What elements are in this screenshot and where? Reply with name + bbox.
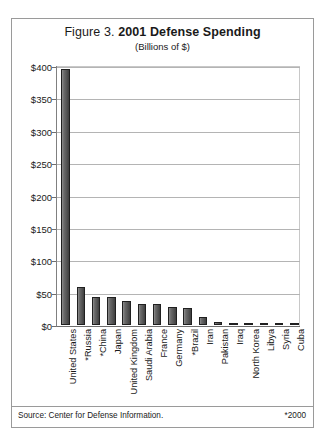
x-axis-label-slot: United States — [56, 329, 71, 415]
bars-layer — [58, 67, 299, 325]
bar-slot — [153, 67, 162, 325]
bar — [61, 69, 70, 325]
bar-slot — [260, 67, 269, 325]
y-axis-tick-label: $250 — [12, 159, 52, 170]
bar-slot — [229, 67, 238, 325]
x-axis-label-slot: Iran — [193, 329, 208, 415]
bar — [260, 323, 269, 325]
x-axis-label-slot: Libya — [254, 329, 269, 415]
bar — [244, 323, 253, 325]
x-axis-labels: United States*Russia*ChinaJapanUnited Ki… — [56, 329, 300, 415]
year-footnote: *2000 — [285, 411, 306, 420]
plot-region — [56, 66, 300, 327]
x-axis-label-slot: Syria — [270, 329, 285, 415]
bar — [138, 304, 147, 325]
x-axis-label-slot: Germany — [163, 329, 178, 415]
footer: Source: Center for Defense Information. … — [12, 407, 313, 427]
bar — [77, 287, 86, 325]
bar-slot — [214, 67, 223, 325]
bar — [229, 323, 238, 325]
bar — [183, 308, 192, 325]
y-axis-tick-label: $400 — [12, 62, 52, 73]
title-block: Figure 3. 2001 Defense Spending (Billion… — [12, 25, 313, 53]
bar-slot — [275, 67, 284, 325]
bar-slot — [138, 67, 147, 325]
x-axis-label-slot: Iraq — [224, 329, 239, 415]
bar-slot — [244, 67, 253, 325]
bar-slot — [77, 67, 86, 325]
source-note: Source: Center for Defense Information. — [18, 411, 163, 420]
y-axis-tick-label: $0 — [12, 321, 52, 332]
figure-number: Figure 3. — [64, 25, 114, 39]
chart-subtitle: (Billions of $) — [12, 41, 313, 53]
y-axis-tick-label: $50 — [12, 288, 52, 299]
bar — [168, 307, 177, 325]
x-axis-label-slot: North Korea — [239, 329, 254, 415]
y-axis-tick-label: $100 — [12, 256, 52, 267]
bar — [290, 323, 299, 325]
bar-slot — [290, 67, 299, 325]
y-axis-tick-label: $300 — [12, 126, 52, 137]
figure-title-text: 2001 Defense Spending — [118, 25, 260, 39]
bar-slot — [92, 67, 101, 325]
bar-slot — [168, 67, 177, 325]
bar-slot — [199, 67, 208, 325]
bar — [122, 301, 131, 325]
bar — [199, 317, 208, 325]
x-axis-label-slot: Pakistan — [209, 329, 224, 415]
x-axis-label-slot: *China — [87, 329, 102, 415]
x-axis-label-slot: *Brazil — [178, 329, 193, 415]
bar-slot — [61, 67, 70, 325]
y-axis-tick-label: $150 — [12, 223, 52, 234]
x-axis-label-slot: Cuba — [285, 329, 300, 415]
y-axis-tick-label: $200 — [12, 191, 52, 202]
bar — [275, 323, 284, 325]
x-axis-label-slot: *Russia — [71, 329, 86, 415]
page-title: Figure 3. 2001 Defense Spending — [12, 25, 313, 40]
x-axis-label-slot: Japan — [102, 329, 117, 415]
bar-slot — [183, 67, 192, 325]
x-axis-label-slot: France — [148, 329, 163, 415]
x-axis-label-slot: Saudi Arabia — [132, 329, 147, 415]
bar — [214, 322, 223, 325]
y-axis-tick-label: $350 — [12, 94, 52, 105]
y-axis: $0$50$100$150$200$250$300$350$400 — [12, 66, 52, 327]
x-axis-label-slot: United Kingdom — [117, 329, 132, 415]
plot-area — [56, 66, 300, 327]
bar-slot — [122, 67, 131, 325]
figure-container: Figure 3. 2001 Defense Spending (Billion… — [11, 18, 314, 428]
bar — [107, 297, 116, 325]
x-axis-tick-label: Cuba — [297, 329, 306, 351]
bar — [92, 297, 101, 325]
bar-slot — [107, 67, 116, 325]
bar — [153, 304, 162, 325]
